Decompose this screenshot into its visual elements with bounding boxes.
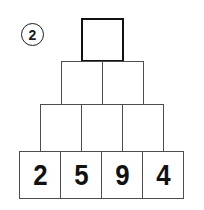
pyramid-row-1 — [81, 18, 124, 62]
pyramid-cell-r4c1[interactable]: 2 — [19, 151, 61, 199]
pyramid-cell-r4c4[interactable]: 4 — [142, 151, 184, 199]
pyramid-cell-value: 2 — [33, 160, 47, 190]
pyramid-cell-r4c2[interactable]: 5 — [60, 151, 102, 199]
pyramid-cell-r1c1[interactable] — [81, 18, 124, 62]
number-pyramid-puzzle: 2 2 5 9 4 — [0, 0, 204, 210]
pyramid-cell-r3c3[interactable] — [122, 104, 164, 152]
pyramid-cell-r3c2[interactable] — [81, 104, 123, 152]
pyramid-cell-r4c3[interactable]: 9 — [101, 151, 143, 199]
pyramid-cell-r2c1[interactable] — [61, 61, 103, 105]
exercise-number-label: 2 — [29, 28, 37, 42]
circled-number-icon: 2 — [21, 23, 44, 46]
pyramid-row-2 — [61, 61, 144, 105]
pyramid-row-3 — [40, 104, 164, 152]
pyramid-cell-r3c1[interactable] — [40, 104, 82, 152]
pyramid-cell-value: 9 — [115, 160, 129, 190]
pyramid-cell-r2c2[interactable] — [102, 61, 144, 105]
pyramid-cell-value: 5 — [74, 160, 88, 190]
pyramid-row-4: 2 5 9 4 — [19, 151, 184, 199]
pyramid-cell-value: 4 — [156, 160, 170, 190]
